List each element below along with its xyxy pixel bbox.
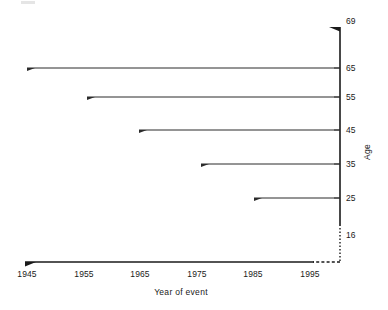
age-by-year-of-event-chart: 69 65 55 45 35 25 16 Age 1945 1955 (0, 0, 388, 310)
y-tick-label-69: 69 (346, 16, 356, 26)
scan-artifact (21, 1, 35, 4)
chart-figure: 69 65 55 45 35 25 16 Age 1945 1955 (0, 0, 388, 310)
x-axis-title: Year of event (154, 287, 208, 297)
y-tick-label-35: 35 (346, 159, 356, 169)
y-tick-label-45: 45 (346, 125, 356, 135)
y-tick-label-65: 65 (346, 63, 356, 73)
y-tick-label-55: 55 (346, 92, 356, 102)
x-tick-label-1975: 1975 (187, 269, 206, 279)
x-tick-label-1945: 1945 (17, 269, 36, 279)
x-tick-label-1955: 1955 (74, 269, 93, 279)
x-tick-label-1985: 1985 (243, 269, 262, 279)
y-tick-label-25: 25 (346, 193, 356, 203)
y-tick-label-16: 16 (346, 230, 356, 240)
x-tick-label-1965: 1965 (130, 269, 149, 279)
chart-background (0, 0, 388, 310)
y-axis-title: Age (362, 144, 372, 160)
x-tick-label-1995: 1995 (300, 269, 319, 279)
